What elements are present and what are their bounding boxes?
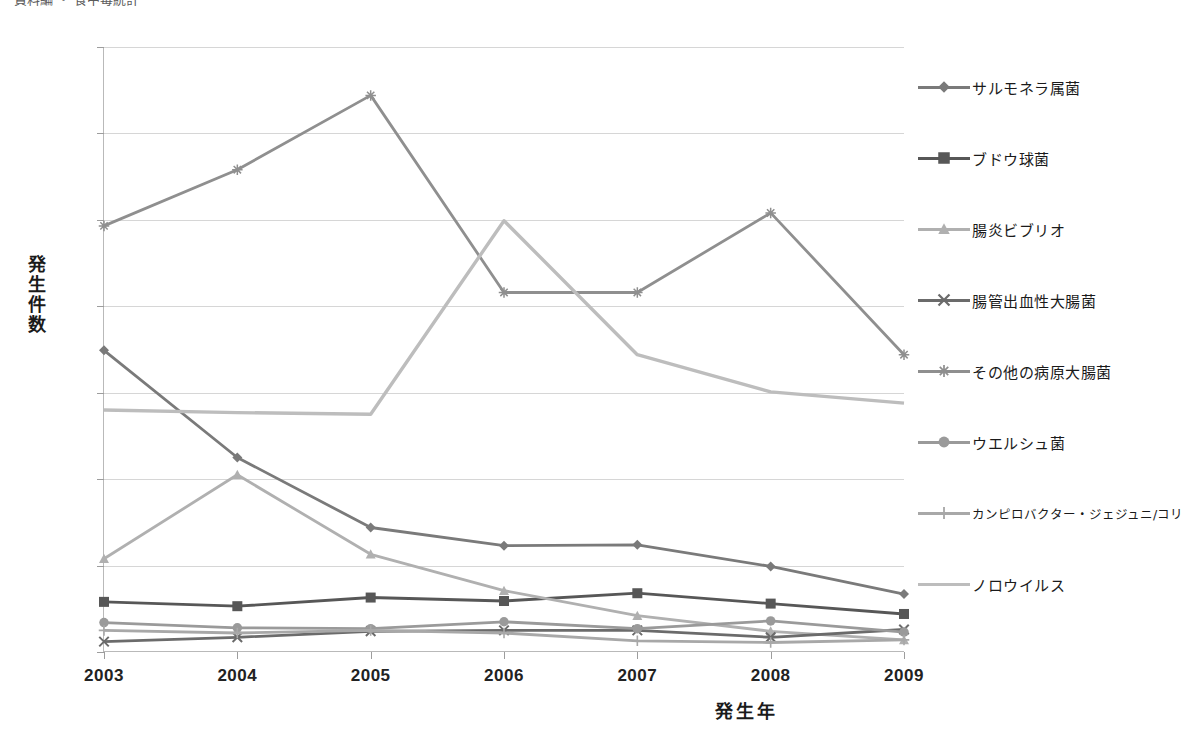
triangle-icon (934, 219, 954, 239)
legend-label: カンピロバクター・ジェジュニ/コリ (972, 504, 1183, 523)
y-tick-mark (97, 479, 104, 480)
legend-item[interactable]: サルモネラ属菌 (916, 76, 1081, 98)
legend-swatch-circle-icon (916, 432, 972, 452)
legend-label: 腸炎ビブリオ (972, 219, 1065, 240)
x-tick-label: 2006 (464, 666, 544, 686)
series-7 (104, 221, 904, 415)
cross-marker (939, 295, 950, 306)
x-tick-label: 2003 (64, 666, 144, 686)
y-axis-label: 発生件数 (22, 255, 48, 335)
diamond-marker (766, 561, 776, 571)
plus-marker (99, 625, 110, 636)
star-marker (938, 365, 950, 377)
x-tick-mark (637, 652, 638, 659)
circle-marker (939, 437, 950, 448)
diamond-marker (632, 540, 642, 550)
star-marker (365, 90, 376, 101)
x-axis-label: 発生年 (0, 697, 1162, 723)
clipped-top-caption: 資料編 ・ 食中毒統計 (0, 0, 1162, 12)
legend-swatch-diamond-icon (916, 77, 972, 97)
legend-label: サルモネラ属菌 (972, 77, 1081, 98)
square-marker (938, 152, 950, 164)
y-tick-mark (97, 47, 104, 48)
square-marker (899, 609, 909, 619)
data-series-layer (104, 47, 904, 652)
series-line (104, 221, 904, 415)
legend-item[interactable]: その他の病原大腸菌 (916, 360, 1112, 382)
circle-icon (934, 432, 954, 452)
circle-marker (633, 624, 643, 634)
legend-item[interactable]: ブドウ球菌 (916, 147, 1050, 169)
x-tick-label: 2004 (197, 666, 277, 686)
x-tick-mark (104, 652, 105, 659)
square-marker (232, 601, 242, 611)
circle-marker (766, 616, 776, 626)
plus-marker (632, 636, 643, 647)
plus-marker (938, 507, 950, 519)
x-tick-mark (237, 652, 238, 659)
cross-icon (934, 290, 954, 310)
square-marker (366, 593, 376, 603)
chart-legend: サルモネラ属菌ブドウ球菌腸炎ビブリオ腸管出血性大腸菌その他の病原大腸菌ウエルシュ… (916, 76, 1160, 616)
star-marker (765, 208, 776, 219)
triangle-marker (232, 470, 242, 479)
legend-swatch-plus-icon (916, 503, 972, 523)
diamond-icon (934, 77, 954, 97)
x-tick-label: 2005 (331, 666, 411, 686)
x-tick-mark (904, 652, 905, 659)
top-caption-text: 資料編 ・ 食中毒統計 (14, 0, 139, 8)
series-line (104, 475, 904, 640)
x-tick-label: 2007 (597, 666, 677, 686)
plot-area: 0100200300400500600700 20032004200520062… (104, 47, 904, 652)
square-marker (499, 596, 509, 606)
x-tick-mark (771, 652, 772, 659)
star-marker (99, 221, 110, 232)
y-tick-mark (97, 306, 104, 307)
legend-label: その他の病原大腸菌 (972, 361, 1112, 382)
y-tick-mark (97, 220, 104, 221)
legend-item[interactable]: ノロウイルス (916, 573, 1065, 595)
x-tick-mark (371, 652, 372, 659)
series-0 (99, 345, 909, 599)
legend-line (918, 583, 970, 586)
legend-swatch-star-icon (916, 361, 972, 381)
legend-swatch-cross-icon (916, 290, 972, 310)
square-icon (934, 148, 954, 168)
legend-label: 腸管出血性大腸菌 (972, 290, 1096, 311)
diamond-marker (499, 541, 509, 551)
y-tick-mark (97, 652, 104, 653)
legend-label: ノロウイルス (972, 574, 1065, 595)
legend-item[interactable]: 腸管出血性大腸菌 (916, 289, 1096, 311)
x-tick-label: 2009 (864, 666, 944, 686)
series-line (104, 350, 904, 594)
plus-marker (765, 637, 776, 648)
legend-item[interactable]: ウエルシュ菌 (916, 431, 1065, 453)
legend-swatch-triangle-icon (916, 219, 972, 239)
x-tick-label: 2008 (731, 666, 811, 686)
star-marker (499, 287, 510, 298)
square-marker (632, 588, 642, 598)
diamond-marker (938, 81, 950, 93)
legend-swatch-none-icon (916, 574, 972, 594)
square-marker (99, 597, 109, 607)
y-tick-mark (97, 566, 104, 567)
plus-icon (934, 503, 954, 523)
triangle-marker (938, 223, 950, 234)
legend-swatch-square-icon (916, 148, 972, 168)
legend-label: ブドウ球菌 (972, 148, 1050, 169)
square-marker (766, 599, 776, 609)
series-4 (99, 90, 910, 360)
legend-item[interactable]: カンピロバクター・ジェジュニ/コリ (916, 502, 1183, 524)
star-marker (632, 287, 643, 298)
legend-item[interactable]: 腸炎ビブリオ (916, 218, 1065, 240)
diamond-marker (366, 523, 376, 533)
y-tick-mark (97, 133, 104, 134)
star-marker (899, 349, 910, 360)
star-icon (934, 361, 954, 381)
series-line (104, 95, 904, 354)
legend-label: ウエルシュ菌 (972, 432, 1065, 453)
x-tick-mark (504, 652, 505, 659)
y-tick-mark (97, 393, 104, 394)
star-marker (232, 164, 243, 175)
